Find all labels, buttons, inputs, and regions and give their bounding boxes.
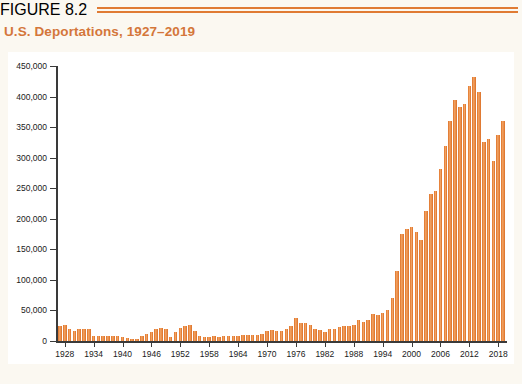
x-axis-tick-label: 1994 bbox=[373, 349, 392, 359]
bar bbox=[87, 329, 91, 341]
bar bbox=[472, 77, 476, 341]
bar bbox=[477, 92, 481, 341]
bar bbox=[458, 107, 462, 341]
bar bbox=[121, 337, 125, 341]
bar bbox=[318, 330, 322, 341]
bar bbox=[347, 326, 351, 341]
bar bbox=[212, 336, 216, 341]
bar bbox=[101, 336, 105, 342]
bar bbox=[381, 313, 385, 341]
bar-series bbox=[58, 66, 508, 341]
bar bbox=[150, 332, 154, 341]
y-axis-tick-mark bbox=[50, 97, 56, 98]
x-axis-tick-mark bbox=[440, 342, 441, 347]
y-axis-tick-mark bbox=[50, 219, 56, 220]
x-axis-tick-label: 1934 bbox=[84, 349, 103, 359]
bar bbox=[352, 325, 356, 341]
x-axis-tick-mark bbox=[498, 342, 499, 347]
bar bbox=[294, 318, 298, 341]
y-axis-tick-label: 0 bbox=[42, 336, 47, 346]
figure-label: FIGURE 8.2 bbox=[0, 1, 87, 19]
bar bbox=[405, 229, 409, 341]
bar bbox=[126, 338, 130, 341]
x-axis-line bbox=[56, 341, 507, 343]
y-axis-tick-mark bbox=[50, 127, 56, 128]
bar bbox=[207, 337, 211, 341]
bar bbox=[68, 329, 72, 341]
y-axis-tick-label: 300,000 bbox=[16, 153, 47, 163]
bar bbox=[63, 325, 67, 342]
bar bbox=[92, 336, 96, 342]
bar bbox=[82, 329, 86, 341]
bar bbox=[415, 232, 419, 341]
x-axis-tick-label: 1970 bbox=[258, 349, 277, 359]
bar bbox=[487, 139, 491, 341]
x-axis-tick-mark bbox=[123, 342, 124, 347]
bar bbox=[111, 336, 115, 342]
y-axis-tick-label: 200,000 bbox=[16, 214, 47, 224]
bar bbox=[496, 135, 500, 341]
bar bbox=[169, 337, 173, 341]
bar bbox=[463, 104, 467, 341]
x-axis-tick-mark bbox=[151, 342, 152, 347]
header-rule-line-top bbox=[97, 7, 518, 9]
y-axis-tick-mark bbox=[50, 66, 56, 67]
x-axis-tick-label: 1946 bbox=[142, 349, 161, 359]
bar bbox=[386, 310, 390, 341]
bar bbox=[448, 121, 452, 341]
bar bbox=[73, 331, 77, 341]
bar bbox=[198, 336, 202, 341]
x-axis-tick-mark bbox=[238, 342, 239, 347]
bar bbox=[395, 271, 399, 341]
x-axis-tick-mark bbox=[296, 342, 297, 347]
bar bbox=[376, 315, 380, 341]
bar bbox=[323, 332, 327, 341]
bar bbox=[145, 334, 149, 341]
figure-header: FIGURE 8.2 bbox=[0, 0, 522, 20]
bar bbox=[304, 323, 308, 341]
bar bbox=[236, 336, 240, 342]
bar bbox=[154, 329, 158, 341]
bar bbox=[285, 329, 289, 341]
bar bbox=[410, 227, 414, 341]
x-axis-tick-mark bbox=[94, 342, 95, 347]
figure-title: U.S. Deportations, 1927–2019 bbox=[4, 24, 195, 39]
bar bbox=[135, 339, 139, 341]
x-axis-tick-mark bbox=[354, 342, 355, 347]
x-axis-tick-label: 1958 bbox=[200, 349, 219, 359]
bar bbox=[188, 325, 192, 342]
x-axis-tick-label: 2006 bbox=[431, 349, 450, 359]
bar bbox=[232, 336, 236, 341]
bar bbox=[256, 335, 260, 341]
bar bbox=[419, 240, 423, 341]
bar bbox=[260, 334, 264, 341]
y-axis-tick-mark bbox=[50, 249, 56, 250]
bar bbox=[333, 329, 337, 341]
y-axis-tick-label: 150,000 bbox=[16, 244, 47, 254]
bar bbox=[174, 332, 178, 341]
bar bbox=[58, 326, 62, 341]
bar bbox=[106, 336, 110, 342]
bar bbox=[429, 194, 433, 341]
bar bbox=[299, 323, 303, 341]
x-axis-tick-label: 1982 bbox=[315, 349, 334, 359]
y-axis-tick-mark bbox=[50, 310, 56, 311]
bar bbox=[468, 86, 472, 341]
x-axis-tick-mark bbox=[65, 342, 66, 347]
y-axis-tick-label: 400,000 bbox=[16, 92, 47, 102]
x-axis-tick-label: 1952 bbox=[171, 349, 190, 359]
y-axis-tick-mark bbox=[50, 188, 56, 189]
bar bbox=[400, 234, 404, 341]
x-axis-tick-mark bbox=[469, 342, 470, 347]
bar bbox=[309, 325, 313, 341]
bar bbox=[164, 329, 168, 341]
bar bbox=[203, 337, 207, 341]
bar bbox=[130, 339, 134, 341]
bar bbox=[193, 331, 197, 341]
x-axis-tick-label: 1988 bbox=[344, 349, 363, 359]
bar bbox=[439, 169, 443, 341]
bar bbox=[275, 331, 279, 341]
bar bbox=[453, 100, 457, 341]
y-axis-tick-mark bbox=[50, 341, 56, 342]
header-rule-line-bottom bbox=[97, 11, 518, 13]
